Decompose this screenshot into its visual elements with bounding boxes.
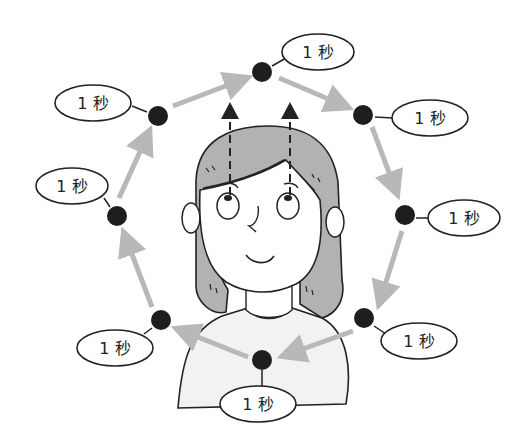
point-lower-right: 1 秒 (354, 308, 457, 359)
callout-label: 1 秒 (448, 209, 479, 228)
gaze-arrow-head-right (281, 102, 299, 119)
point-top: 1 秒 (252, 34, 354, 82)
point-left: 1 秒 (36, 168, 127, 226)
callout-label: 1 秒 (403, 332, 434, 351)
left-ear (182, 203, 200, 233)
eye-exercise-diagram: 1 秒 1 秒 1 秒 1 秒 1 秒 1 秒 1 秒 (0, 0, 530, 448)
callout-label: 1 秒 (77, 94, 108, 113)
callout-label: 1 秒 (414, 109, 445, 128)
gaze-arrow-head-left (221, 102, 239, 119)
point-right: 1 秒 (395, 200, 500, 236)
point-upper-left: 1 秒 (55, 85, 168, 126)
dot (252, 62, 272, 82)
point-lower-left: 1 秒 (77, 310, 171, 366)
callout-label: 1 秒 (302, 43, 333, 62)
point-upper-right: 1 秒 (353, 100, 468, 136)
callout-label: 1 秒 (242, 395, 273, 414)
right-ear (326, 207, 344, 237)
callout-label: 1 秒 (99, 339, 130, 358)
callout-label: 1 秒 (56, 177, 87, 196)
